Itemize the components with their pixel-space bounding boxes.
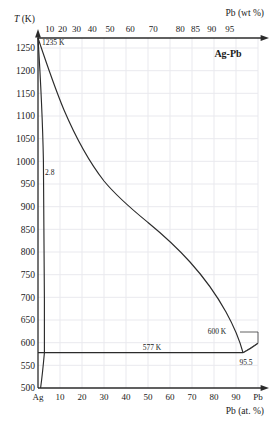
solvus-curve xyxy=(41,353,45,388)
y-tick-label: 950 xyxy=(21,179,36,189)
y-tick-label: 650 xyxy=(21,315,36,325)
y-tick-label: 900 xyxy=(21,202,36,212)
x-top-tick-label: 80 xyxy=(176,24,186,34)
series-title: Ag-Pb xyxy=(214,48,242,59)
x-tick-label: 70 xyxy=(188,392,198,402)
y-tick-label: 1100 xyxy=(16,111,35,121)
y-tick-label: 600 xyxy=(21,338,36,348)
y-tick-label: 1000 xyxy=(16,157,35,167)
x-tick-label: 20 xyxy=(78,392,88,402)
x-top-tick-label: 85 xyxy=(191,24,201,34)
x-axis-top xyxy=(38,35,269,41)
x-top-tick-label: 40 xyxy=(88,24,98,34)
y-tick-label: 1050 xyxy=(16,134,35,144)
x-tick-label: Pb xyxy=(253,392,263,402)
x-top-tick-label: 10 xyxy=(45,24,55,34)
phase-diagram: 500 550 600 650 700 750 800 850 900 950 … xyxy=(0,0,275,424)
x-top-tick-label: 20 xyxy=(58,24,68,34)
liquidus-curve xyxy=(38,38,243,353)
annotation-max-solubility: 2.8 xyxy=(45,168,55,177)
bottom-axis-title: Pb (at. %) xyxy=(226,406,264,417)
x-tick-label: 60 xyxy=(166,392,176,402)
y-axis-title-unit: (K) xyxy=(19,14,35,25)
x-top-tick-label: 70 xyxy=(149,24,159,34)
x-axis-bottom xyxy=(38,385,269,391)
x-tick-label: 50 xyxy=(144,392,154,402)
y-tick-label: 1250 xyxy=(16,43,35,53)
top-axis-title: Pb (wt %) xyxy=(225,8,264,19)
solidus-curve xyxy=(38,38,44,353)
y-tick-label: 1150 xyxy=(16,89,35,99)
x-tick-label: 80 xyxy=(210,392,220,402)
annotation-pb-melting-point: 600 K xyxy=(208,327,227,336)
x-tick-label: Ag xyxy=(33,392,44,402)
y-tick-label: 800 xyxy=(21,247,36,257)
y-tick-label: 700 xyxy=(21,293,36,303)
phase-diagram-canvas: 500 550 600 650 700 750 800 850 900 950 … xyxy=(0,0,275,424)
y-tick-labels: 500 550 600 650 700 750 800 850 900 950 … xyxy=(16,43,35,393)
y-tick-label: 550 xyxy=(21,361,36,371)
x-top-tick-label: 95 xyxy=(225,24,235,34)
x-tick-label: 10 xyxy=(56,392,66,402)
x-top-tick-label: 60 xyxy=(126,24,136,34)
x-tick-label: 40 xyxy=(122,392,132,402)
x-top-tick-label: 30 xyxy=(72,24,82,34)
annotation-eutectic-composition: 95.5 xyxy=(239,358,252,367)
x-tick-labels-bottom: Ag 10 20 30 40 50 60 70 80 90 Pb xyxy=(33,392,264,402)
x-tick-label: 30 xyxy=(100,392,110,402)
x-tick-label: 90 xyxy=(232,392,242,402)
annotation-ag-melting-point: 1235 K xyxy=(42,38,65,47)
y-tick-label: 1200 xyxy=(16,66,35,76)
y-tick-label: 850 xyxy=(21,225,36,235)
y-tick-label: 750 xyxy=(21,270,36,280)
y-axis-title: T (K) xyxy=(14,14,35,25)
annotation-eutectic-temperature: 577 K xyxy=(143,343,162,352)
x-tick-labels-top: 10 20 30 40 50 60 70 80 85 90 95 xyxy=(45,24,235,34)
x-top-tick-label: 50 xyxy=(105,24,115,34)
x-top-tick-label: 90 xyxy=(207,24,217,34)
